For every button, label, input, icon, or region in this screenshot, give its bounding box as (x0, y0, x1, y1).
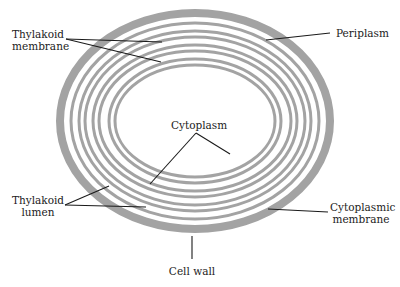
cytoplasm-leader (196, 133, 230, 154)
label-cytoplasm-text: Cytoplasm (171, 119, 227, 131)
label-cell-wall: Cell wall (162, 265, 222, 277)
label-thylakoid-membrane-line2: membrane (12, 40, 64, 52)
label-cell-wall-text: Cell wall (169, 265, 215, 277)
label-thylakoid-membrane-line1: Thylakoid (12, 28, 64, 40)
label-cytoplasm: Cytoplasm (171, 119, 227, 131)
label-thylakoid-lumen-line2: lumen (12, 206, 64, 218)
label-periplasm: Periplasm (336, 27, 389, 39)
label-thylakoid-lumen-line1: Thylakoid (12, 194, 64, 206)
label-cytoplasmic-membrane: Cytoplasmic membrane (330, 201, 392, 225)
label-thylakoid-lumen: Thylakoid lumen (12, 194, 64, 218)
label-thylakoid-membrane: Thylakoid membrane (12, 28, 64, 52)
label-periplasm-text: Periplasm (336, 27, 389, 39)
label-cytoplasmic-membrane-line2: membrane (330, 213, 392, 225)
label-cytoplasmic-membrane-line1: Cytoplasmic (330, 201, 392, 213)
